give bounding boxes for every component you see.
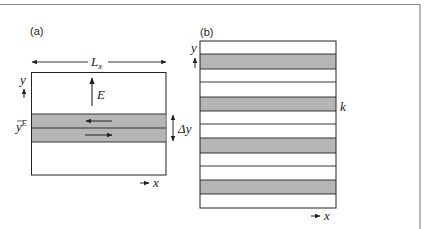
panel-a: (a) Lx E y yE Δy x [14, 25, 192, 190]
x-axis-label: x [152, 175, 159, 190]
stripe [200, 54, 336, 69]
y-axis-label: y [18, 72, 26, 87]
y-axis-label: y [189, 40, 197, 55]
panel-b-label: (b) [200, 26, 213, 38]
side-label: k [340, 99, 346, 114]
field-label: E [96, 87, 105, 102]
stripe [200, 138, 336, 153]
band-height-label: Δy [177, 121, 192, 136]
figure-canvas: (a) Lx E y yE Δy x (b) [0, 0, 425, 229]
stripe [200, 180, 336, 194]
x-axis-label: x [323, 208, 330, 223]
panel-a-label: (a) [30, 25, 43, 37]
width-label: Lx [90, 54, 102, 71]
panel-b: (b) y k x [189, 26, 346, 223]
stripe [200, 97, 336, 111]
